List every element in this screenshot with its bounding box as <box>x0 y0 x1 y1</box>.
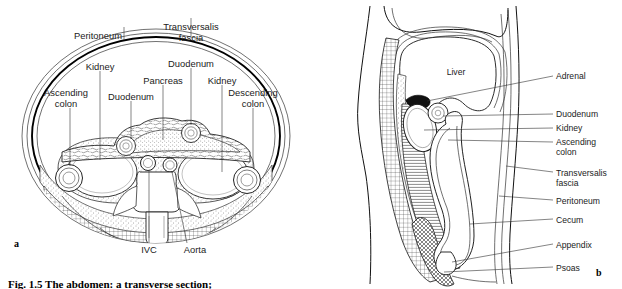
body-right-contour <box>510 6 519 284</box>
panel-b-letter: b <box>596 267 602 278</box>
label-transversalis-a: Transversalis <box>163 21 219 32</box>
label-duodenum-left-a: Duodenum <box>108 91 154 102</box>
label-kidney-right-a: Kidney <box>208 75 237 86</box>
label-adrenal-b: Adrenal <box>556 71 586 81</box>
body-left-contour <box>358 6 371 284</box>
duodenum-left-organ <box>117 137 136 156</box>
label-descending-colon-a: Descending <box>228 87 278 98</box>
pelvic-floor-line <box>452 276 496 282</box>
label-duodenum-b: Duodenum <box>556 109 598 119</box>
label-transversalis-b: Transversalis <box>556 168 607 178</box>
label-descending-colon-a-2: colon <box>242 98 264 109</box>
label-ascending-colon-a-2: colon <box>55 98 77 109</box>
label-transversalis-a-2: fascia <box>179 32 204 43</box>
figure-canvas: Peritoneum Transversalis fascia Kidney D… <box>0 0 622 289</box>
ascending-colon-organ <box>56 165 83 192</box>
descending-colon-organ <box>234 167 261 194</box>
aorta-vessel <box>163 158 177 172</box>
figure-caption: Fig. 1.5 The abdomen: a transverse secti… <box>8 278 212 289</box>
panel-a-letter: a <box>14 238 19 249</box>
label-peritoneum-b: Peritoneum <box>556 196 600 206</box>
ascending-colon-organ-b <box>430 112 474 271</box>
label-psoas-b: Psoas <box>556 263 580 273</box>
label-aorta-a: Aorta <box>184 244 207 255</box>
label-duodenum-top-a: Duodenum <box>168 58 214 69</box>
panel-b-illustration: Liver Adrenal Duodenum Kidney Ascending … <box>358 6 607 286</box>
label-pancreas-a: Pancreas <box>143 75 183 86</box>
label-cecum-b: Cecum <box>556 215 583 225</box>
label-ascending-colon-b-2: colon <box>556 147 577 157</box>
panel-a-illustration: Peritoneum Transversalis fascia Kidney D… <box>14 18 290 255</box>
label-ascending-colon-a: Ascending <box>44 87 88 98</box>
label-transversalis-b-2: fascia <box>556 178 579 188</box>
label-kidney-b: Kidney <box>556 123 583 133</box>
label-ivc-a: IVC <box>141 244 157 255</box>
duodenum-right-organ <box>182 124 201 143</box>
anatomical-figure: Peritoneum Transversalis fascia Kidney D… <box>0 0 622 289</box>
ivc-vessel <box>141 156 156 171</box>
label-kidney-left-a: Kidney <box>86 61 115 72</box>
label-liver-b: Liver <box>447 67 466 77</box>
label-peritoneum-a: Peritoneum <box>74 30 122 41</box>
label-appendix-b: Appendix <box>556 240 593 250</box>
label-ascending-colon-b: Ascending <box>556 137 596 147</box>
